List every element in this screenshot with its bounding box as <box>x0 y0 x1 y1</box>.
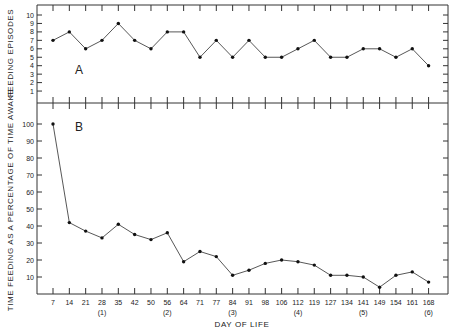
x-tick-label: 14 <box>65 299 73 306</box>
data-point <box>231 56 234 59</box>
series-line <box>53 124 429 287</box>
data-point <box>247 269 250 272</box>
data-point <box>84 229 87 232</box>
x-group-label: (4) <box>294 309 303 317</box>
data-point <box>362 47 365 50</box>
data-point <box>280 258 283 261</box>
x-tick-label: 91 <box>245 299 253 306</box>
y-tick-label: 8 <box>30 28 34 35</box>
x-tick-label: 161 <box>406 299 418 306</box>
data-point <box>296 47 299 50</box>
data-point <box>166 30 169 33</box>
x-tick-label: 149 <box>374 299 386 306</box>
data-point <box>198 250 201 253</box>
y-tick-label: 10 <box>26 12 34 19</box>
data-point <box>378 47 381 50</box>
x-tick-label: 141 <box>357 299 369 306</box>
x-axis-title: DAY OF LIFE <box>215 320 270 329</box>
x-tick-label: 28 <box>98 299 106 306</box>
data-point <box>133 39 136 42</box>
x-tick-label: 56 <box>163 299 171 306</box>
data-point <box>100 236 103 239</box>
y-tick-label: 1 <box>30 88 34 95</box>
y-tick-label: 4 <box>30 62 34 69</box>
y-tick-label: 60 <box>26 189 34 196</box>
x-tick-label: 21 <box>82 299 90 306</box>
x-tick-label: 42 <box>131 299 139 306</box>
y-tick-label: 80 <box>26 155 34 162</box>
y-tick-label: 20 <box>26 257 34 264</box>
data-point <box>345 274 348 277</box>
data-point <box>84 47 87 50</box>
data-point <box>264 262 267 265</box>
y-tick-label: 100 <box>22 121 34 128</box>
x-tick-label: 134 <box>341 299 353 306</box>
x-tick-label: 127 <box>325 299 337 306</box>
y-tick-label: 30 <box>26 240 34 247</box>
data-point <box>247 39 250 42</box>
y-tick-label: 70 <box>26 172 34 179</box>
panel-b-y-axis: 102030405060708090100 <box>22 121 448 281</box>
x-tick-label: 7 <box>51 299 55 306</box>
series-line <box>53 23 429 65</box>
data-point <box>231 274 234 277</box>
panel-b-series <box>51 122 430 289</box>
data-point <box>149 47 152 50</box>
x-group-label: (2) <box>163 309 172 317</box>
data-point <box>198 56 201 59</box>
data-point <box>411 270 414 273</box>
feeding-chart: 12345678910 102030405060708090100 714212… <box>0 0 452 335</box>
y-tick-label: 9 <box>30 20 34 27</box>
x-group-label: (3) <box>228 309 237 317</box>
y-tick-label: 7 <box>30 37 34 44</box>
data-point <box>378 286 381 289</box>
data-point <box>329 274 332 277</box>
data-point <box>215 255 218 258</box>
data-point <box>296 260 299 263</box>
data-point <box>51 39 54 42</box>
data-point <box>117 223 120 226</box>
data-point <box>215 39 218 42</box>
y-tick-label: 90 <box>26 138 34 145</box>
data-point <box>68 221 71 224</box>
data-point <box>427 280 430 283</box>
x-tick-label: 112 <box>292 299 303 306</box>
data-point <box>394 56 397 59</box>
panel-a-label: A <box>75 63 83 77</box>
panel-b-y-title: TIME FEEDING AS A PERCENTAGE OF TIME AWA… <box>6 89 15 312</box>
data-point <box>117 22 120 25</box>
data-point <box>345 56 348 59</box>
data-point <box>394 274 397 277</box>
x-tick-label: 168 <box>423 299 435 306</box>
panel-b-label: B <box>75 120 83 134</box>
x-tick-label: 77 <box>212 299 220 306</box>
data-point <box>329 56 332 59</box>
x-tick-label: 84 <box>229 299 237 306</box>
data-point <box>133 233 136 236</box>
x-group-label: (1) <box>98 309 107 317</box>
x-tick-label: 106 <box>276 299 288 306</box>
x-tick-label: 35 <box>114 299 122 306</box>
data-point <box>411 47 414 50</box>
panel-a-series <box>51 22 430 68</box>
panel-a-y-title: FEEDING EPISODES <box>6 9 15 97</box>
data-point <box>313 39 316 42</box>
x-axis-tick-labels: 7142128354250566471778491981061121191271… <box>51 299 434 306</box>
x-tick-label: 71 <box>196 299 204 306</box>
x-tick-label: 50 <box>147 299 155 306</box>
data-point <box>280 56 283 59</box>
y-tick-label: 2 <box>30 79 34 86</box>
x-tick-label: 119 <box>309 299 320 306</box>
x-tick-label: 154 <box>390 299 402 306</box>
x-tick-label: 64 <box>180 299 188 306</box>
data-point <box>362 275 365 278</box>
data-point <box>313 263 316 266</box>
data-point <box>149 238 152 241</box>
data-point <box>264 56 267 59</box>
data-point <box>182 30 185 33</box>
x-group-label: (6) <box>424 309 433 317</box>
x-tick-label: 98 <box>261 299 269 306</box>
data-point <box>68 30 71 33</box>
y-tick-label: 6 <box>30 45 34 52</box>
data-point <box>182 260 185 263</box>
